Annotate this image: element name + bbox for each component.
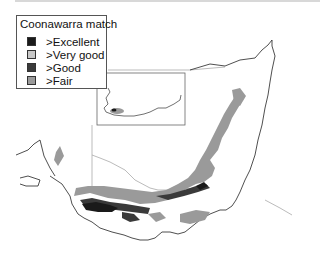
legend-title: Coonawarra match — [20, 18, 117, 30]
legend-item-very-good: >Very good — [27, 48, 105, 61]
swatch-very-good — [27, 50, 36, 59]
swatch-excellent — [27, 37, 36, 46]
inset-match — [110, 108, 124, 114]
inset-frame — [97, 73, 185, 125]
legend-item-excellent: >Excellent — [27, 35, 99, 48]
legend: Coonawarra match >Excellent >Very good >… — [16, 15, 107, 89]
swatch-good — [27, 63, 36, 72]
swatch-fair — [27, 76, 36, 85]
legend-item-fair: >Fair — [27, 74, 73, 87]
legend-item-good: >Good — [27, 61, 81, 74]
